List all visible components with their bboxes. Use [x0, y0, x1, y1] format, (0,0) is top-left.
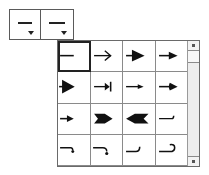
arrow-style-option-none[interactable] [58, 41, 91, 72]
arrow-style-option-filled-arrow-large[interactable] [123, 41, 156, 72]
hook-up-small-icon [156, 104, 188, 134]
thin-arrow-icon [123, 72, 155, 102]
plain-line-icon [18, 22, 32, 24]
arrow-style-option-hook-up[interactable] [123, 135, 156, 166]
curl-icon [156, 135, 188, 165]
scroll-down-icon [192, 160, 195, 163]
fletched-arrow-icon [91, 104, 123, 134]
round-arrow-icon [156, 72, 188, 102]
arrow-style-option-reverse-fletch[interactable] [123, 104, 156, 135]
open-arrow-icon [91, 41, 123, 71]
arrow-style-option-round-arrow[interactable] [156, 72, 189, 103]
hook-down-icon [58, 135, 90, 165]
line-end-style-button[interactable] [40, 9, 74, 40]
scroll-down-button[interactable] [188, 156, 199, 166]
arrow-style-option-curve-down[interactable] [91, 135, 124, 166]
arrow-style-option-thin-arrow[interactable] [123, 72, 156, 103]
filled-arrow-large-icon [123, 41, 155, 71]
scrollbar-thumb[interactable] [188, 51, 199, 63]
scroll-up-icon [192, 44, 195, 47]
curve-down-icon [91, 135, 123, 165]
arrow-style-option-filled-arrow-wide[interactable] [58, 72, 91, 103]
vertical-scrollbar[interactable] [187, 41, 199, 166]
arrow-bar-icon [91, 72, 123, 102]
arrow-style-option-arrow-bar[interactable] [91, 72, 124, 103]
arrow-style-grid [58, 41, 188, 166]
arrow-style-option-curl[interactable] [156, 135, 189, 166]
small-arrow-icon [58, 104, 90, 134]
arrow-style-popup [57, 40, 200, 167]
line-start-style-button[interactable] [9, 9, 41, 40]
dropdown-caret-icon [28, 31, 34, 35]
dropdown-caret-icon [61, 31, 67, 35]
arrow-style-option-filled-arrow[interactable] [156, 41, 189, 72]
arrow-style-option-open-arrow[interactable] [91, 41, 124, 72]
arrow-style-option-fletched-arrow[interactable] [91, 104, 124, 135]
arrow-style-option-hook-up-small[interactable] [156, 104, 189, 135]
arrow-style-option-small-arrow[interactable] [58, 104, 91, 135]
filled-arrow-wide-icon [58, 72, 90, 102]
filled-arrow-icon [156, 41, 188, 71]
plain-line-icon [58, 41, 90, 71]
scroll-up-button[interactable] [188, 41, 199, 51]
reverse-fletch-icon [123, 104, 155, 134]
hook-up-icon [123, 135, 155, 165]
plain-line-icon [49, 22, 65, 24]
arrow-style-option-hook-down[interactable] [58, 135, 91, 166]
